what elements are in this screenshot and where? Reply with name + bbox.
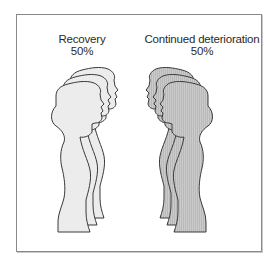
deterioration-figures [146, 67, 213, 232]
recovery-figures [52, 67, 119, 232]
figures-illustration [0, 0, 270, 265]
